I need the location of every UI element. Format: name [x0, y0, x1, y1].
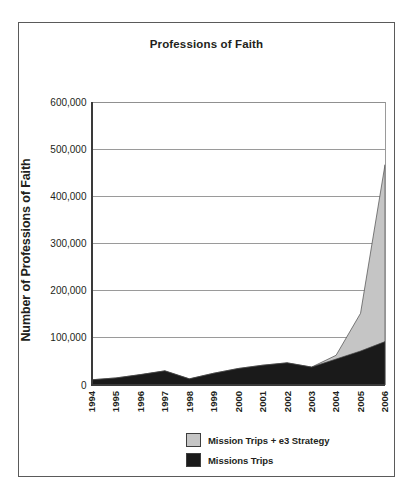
y-tick-label: 300,000 — [50, 238, 87, 249]
y-tick-label: 600,000 — [50, 97, 87, 108]
chart-figure: Professions of Faith Number of Professio… — [0, 0, 413, 497]
legend-swatch-gray — [186, 433, 201, 447]
x-tick-label: 2003 — [306, 391, 317, 412]
area-series — [92, 165, 386, 385]
x-tick-label: 1995 — [110, 390, 121, 412]
legend-item-missions-trips: Missions Trips — [186, 451, 386, 469]
x-tick-label: 2000 — [233, 391, 244, 412]
x-tick-label: 1998 — [184, 391, 195, 412]
legend-label-missions-trips: Missions Trips — [208, 455, 273, 466]
axes — [91, 102, 386, 386]
y-tick-label: 400,000 — [50, 191, 87, 202]
x-tick-label: 2005 — [355, 390, 366, 412]
legend-label-mission-trips-e3: Mission Trips + e3 Strategy — [208, 435, 329, 446]
x-tick-label: 2001 — [257, 390, 268, 412]
x-tick-label: 1994 — [86, 390, 97, 412]
y-axis-tick-labels: 0100,000200,000300,000400,000500,000600,… — [50, 97, 87, 391]
y-tick-label: 100,000 — [50, 332, 87, 343]
x-tick-label: 1997 — [159, 391, 170, 412]
gridlines — [92, 102, 386, 338]
x-tick-label: 2002 — [282, 391, 293, 412]
legend-swatch-black — [186, 453, 201, 467]
chart-legend: Mission Trips + e3 Strategy Missions Tri… — [186, 431, 386, 471]
x-tick-label: 1999 — [208, 391, 219, 412]
legend-item-mission-trips-e3: Mission Trips + e3 Strategy — [186, 431, 386, 449]
x-tick-label: 2004 — [330, 390, 341, 412]
y-tick-label: 500,000 — [50, 144, 87, 155]
y-tick-label: 0 — [81, 380, 87, 391]
x-axis-tick-labels: 1994199519961997199819992000200120022003… — [86, 390, 391, 412]
x-tick-label: 2006 — [379, 391, 390, 412]
y-tick-label: 200,000 — [50, 285, 87, 296]
plot-area: 0100,000200,000300,000400,000500,000600,… — [0, 0, 413, 497]
x-tick-label: 1996 — [135, 391, 146, 412]
